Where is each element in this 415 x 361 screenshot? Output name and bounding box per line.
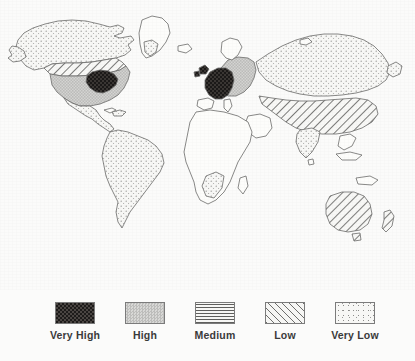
legend-label-medium: Medium <box>183 329 247 341</box>
legend-swatch-high <box>125 302 165 324</box>
region-india <box>296 128 320 158</box>
legend-label-high: High <box>118 329 172 341</box>
region-kamchatka <box>387 62 402 77</box>
legend-label-very-low: Very Low <box>324 329 386 341</box>
world-map-svg <box>0 0 415 290</box>
legend-label-very-high: Very High <box>43 329 107 341</box>
legend-swatch-low <box>265 302 305 324</box>
region-central-southern-asia <box>259 96 378 134</box>
region-british-isles <box>199 65 209 74</box>
region-indonesia <box>336 152 362 160</box>
figure-root: Very High High Medium Low Very Low <box>0 0 415 361</box>
legend: Very High High Medium Low Very Low <box>0 290 415 361</box>
region-madagascar <box>238 176 248 194</box>
world-map <box>0 0 415 290</box>
region-australia <box>326 192 372 232</box>
region-iberia <box>197 98 214 110</box>
region-russia-siberia <box>256 34 390 96</box>
legend-swatch-medium <box>195 302 235 324</box>
region-new-zealand <box>382 210 394 232</box>
region-iceland <box>178 44 192 53</box>
region-png <box>356 176 378 185</box>
region-tasmania <box>352 233 361 241</box>
region-italy <box>224 99 232 112</box>
region-south-america <box>102 130 164 228</box>
region-sri-lanka <box>308 159 314 165</box>
legend-swatch-very-high <box>55 302 95 324</box>
region-southeast-asia <box>338 134 356 150</box>
legend-swatch-very-low <box>335 302 375 324</box>
legend-label-low: Low <box>260 329 310 341</box>
region-ireland <box>194 71 200 77</box>
